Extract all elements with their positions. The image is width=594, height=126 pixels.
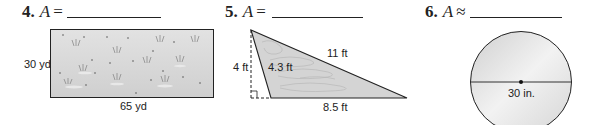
triangle-left-side-label: 4.3 ft (268, 61, 292, 73)
circle-diameter-label: 30 in. (508, 87, 535, 99)
figures-canvas: 30 yd 65 yd 4 ft 4.3 ft 11 ft 8.5 ft 30 … (0, 0, 594, 125)
center-point (519, 80, 523, 84)
triangle-hypotenuse-label: 11 ft (327, 47, 348, 59)
triangle-height-label: 4 ft (233, 61, 248, 73)
rectangle-height-label: 30 yd (24, 58, 51, 70)
rectangle-figure (51, 30, 214, 98)
right-angle-marker (251, 91, 257, 98)
rectangle-width-label: 65 yd (120, 100, 147, 112)
circle-figure (471, 32, 572, 126)
triangle-base-label: 8.5 ft (323, 101, 347, 113)
